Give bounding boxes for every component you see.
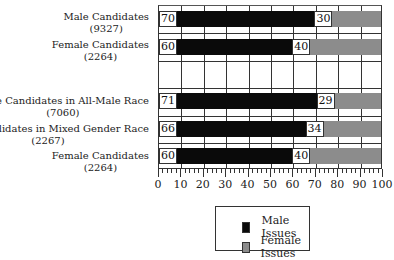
minor-tick — [252, 169, 253, 173]
value-label: 71 — [159, 93, 177, 109]
minor-tick — [297, 169, 298, 173]
category-label-male-all-male-race: Male Candidates in All-Male Race (7060) — [0, 95, 149, 119]
bar-segment-female-issues: 29 — [317, 93, 381, 109]
gridline-h — [159, 88, 381, 89]
minor-tick — [301, 169, 302, 173]
legend-swatch-gray — [242, 242, 250, 253]
bar-segment-female-issues: 40 — [292, 148, 381, 164]
category-label-male-mixed-gender-race: Male Candidates in Mixed Gender Race (22… — [0, 123, 149, 147]
major-tick — [360, 169, 361, 177]
tick-label: 100 — [367, 178, 394, 191]
value-label: 70 — [159, 11, 177, 27]
minor-tick — [216, 169, 217, 173]
minor-tick — [310, 169, 311, 173]
major-tick — [337, 169, 338, 177]
minor-tick — [167, 169, 168, 173]
minor-tick — [378, 169, 379, 173]
category-count: (2264) — [52, 51, 149, 63]
major-tick — [292, 169, 293, 177]
major-tick — [180, 169, 181, 177]
minor-tick — [328, 169, 329, 173]
minor-tick — [257, 169, 258, 173]
bar-segment-male-issues: 60 — [159, 39, 292, 55]
major-tick — [248, 169, 249, 177]
plot-area: 70 30 60 40 71 29 66 34 60 40 — [158, 5, 382, 169]
legend-swatch-black — [242, 222, 250, 233]
minor-tick — [274, 169, 275, 173]
minor-tick — [207, 169, 208, 173]
category-count: (7060) — [0, 107, 149, 119]
bar-segment-male-issues: 66 — [159, 121, 306, 137]
category-name: Female Candidates — [52, 150, 149, 162]
major-tick — [225, 169, 226, 177]
value-label: 30 — [314, 11, 332, 27]
minor-tick — [266, 169, 267, 173]
minor-tick — [346, 169, 347, 173]
category-count: (9327) — [63, 23, 149, 35]
minor-tick — [355, 169, 356, 173]
minor-tick — [171, 169, 172, 173]
legend-label: Female Issues — [261, 234, 309, 260]
minor-tick — [234, 169, 235, 173]
bar-segment-male-issues: 60 — [159, 148, 292, 164]
minor-tick — [243, 169, 244, 173]
bar-female-candidates: 60 40 — [159, 39, 381, 55]
minor-tick — [162, 169, 163, 173]
value-label: 60 — [159, 148, 177, 164]
major-tick — [158, 169, 159, 177]
gridline-h — [159, 116, 381, 117]
minor-tick — [194, 169, 195, 173]
major-tick — [315, 169, 316, 177]
bar-segment-male-issues: 70 — [159, 11, 314, 27]
minor-tick — [319, 169, 320, 173]
major-tick — [382, 169, 383, 177]
minor-tick — [212, 169, 213, 173]
bar-segment-female-issues: 34 — [306, 121, 381, 137]
minor-tick — [283, 169, 284, 173]
category-name: Male Candidates — [63, 11, 149, 23]
value-label: 66 — [159, 121, 177, 137]
gridline-h — [159, 33, 381, 34]
minor-tick — [230, 169, 231, 173]
value-label: 29 — [317, 93, 335, 109]
minor-tick — [198, 169, 199, 173]
minor-tick — [342, 169, 343, 173]
value-label: 40 — [292, 39, 310, 55]
minor-tick — [176, 169, 177, 173]
category-name: Female Candidates — [52, 39, 149, 51]
bar-segment-male-issues: 71 — [159, 93, 317, 109]
category-count: (2267) — [0, 135, 149, 147]
value-label: 40 — [292, 148, 310, 164]
value-label: 60 — [159, 39, 177, 55]
minor-tick — [288, 169, 289, 173]
category-name: Male Candidates in Mixed Gender Race — [0, 123, 149, 135]
category-label-female-candidates-2: Female Candidates (2264) — [52, 150, 149, 174]
category-label-male-candidates: Male Candidates (9327) — [63, 11, 149, 35]
bar-segment-female-issues: 40 — [292, 39, 381, 55]
minor-tick — [333, 169, 334, 173]
gridline-h — [159, 143, 381, 144]
category-count: (2264) — [52, 162, 149, 174]
minor-tick — [351, 169, 352, 173]
minor-tick — [185, 169, 186, 173]
minor-tick — [306, 169, 307, 173]
minor-tick — [364, 169, 365, 173]
value-label: 34 — [306, 121, 324, 137]
bar-female-candidates-2: 60 40 — [159, 148, 381, 164]
minor-tick — [239, 169, 240, 173]
category-name: Male Candidates in All-Male Race — [0, 95, 149, 107]
gridline-h — [159, 61, 381, 62]
bar-male-candidates: 70 30 — [159, 11, 381, 27]
major-tick — [203, 169, 204, 177]
minor-tick — [279, 169, 280, 173]
minor-tick — [189, 169, 190, 173]
bar-male-mixed-gender-race: 66 34 — [159, 121, 381, 137]
category-label-female-candidates: Female Candidates (2264) — [52, 39, 149, 63]
legend: Male Issues Female Issues — [215, 206, 310, 251]
minor-tick — [261, 169, 262, 173]
legend-item-female-issues: Female Issues — [242, 234, 309, 260]
minor-tick — [369, 169, 370, 173]
bar-segment-female-issues: 30 — [314, 11, 381, 27]
major-tick — [270, 169, 271, 177]
minor-tick — [324, 169, 325, 173]
